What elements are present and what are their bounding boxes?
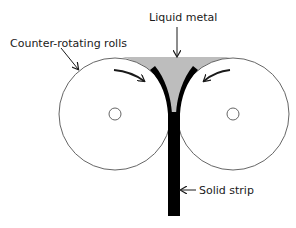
left-roll bbox=[59, 58, 171, 170]
strip-casting-diagram: Liquid metal Counter-rotating rolls Soli… bbox=[0, 0, 296, 228]
strip-label: Solid strip bbox=[199, 184, 254, 197]
liquid-metal-label: Liquid metal bbox=[149, 11, 217, 24]
rolls-arrow-icon bbox=[61, 48, 78, 69]
solid-strip bbox=[168, 112, 180, 216]
rolls-label: Counter-rotating rolls bbox=[10, 37, 127, 50]
right-roll bbox=[177, 58, 289, 170]
